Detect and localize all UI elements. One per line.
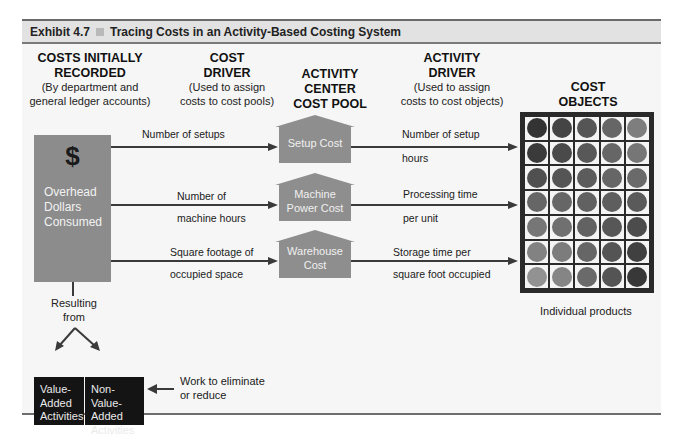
subheading-line: (Used to assign xyxy=(392,81,512,95)
product-cell xyxy=(525,117,548,140)
product-dot-icon xyxy=(602,118,622,138)
product-cell xyxy=(575,241,598,264)
cost-pool-machine-power: Machine Power Cost xyxy=(275,173,355,221)
split-arrows-icon xyxy=(55,326,125,352)
product-dot-icon xyxy=(577,242,597,262)
product-cell xyxy=(601,166,624,189)
product-cell xyxy=(575,265,598,288)
overhead-dollars-box: $ Overhead Dollars Consumed xyxy=(34,135,111,282)
product-cell xyxy=(525,166,548,189)
product-dot-icon xyxy=(527,217,547,237)
note-line: Work to eliminate xyxy=(180,374,265,388)
cost-driver-label-3b: occupied space xyxy=(170,268,243,280)
product-dot-icon xyxy=(577,192,597,212)
product-dot-icon xyxy=(627,192,647,212)
product-dot-icon xyxy=(627,217,647,237)
arrow-line xyxy=(351,146,509,148)
product-dot-icon xyxy=(627,118,647,138)
activity-driver-label-3a: Storage time per xyxy=(393,246,471,258)
product-cell xyxy=(525,191,548,214)
arrow-line xyxy=(111,260,269,262)
product-dot-icon xyxy=(602,267,622,287)
arrow-line xyxy=(111,146,269,148)
subheading-line: general ledger accounts) xyxy=(24,95,156,109)
product-grid xyxy=(520,112,654,293)
product-dot-icon xyxy=(602,217,622,237)
product-cell xyxy=(601,117,624,140)
subheading-line: costs to cost pools) xyxy=(172,95,282,109)
product-cell xyxy=(601,191,624,214)
heading-line: CENTER xyxy=(280,82,380,97)
heading-line: COST xyxy=(172,51,282,66)
connector-line xyxy=(72,282,74,296)
dollar-icon: $ xyxy=(34,141,111,172)
arrow-right-icon xyxy=(508,143,518,151)
subheading-line: costs to cost objects) xyxy=(392,95,512,109)
product-cell xyxy=(601,241,624,264)
product-dot-icon xyxy=(577,267,597,287)
product-dot-icon xyxy=(552,242,572,262)
product-cell xyxy=(626,265,649,288)
product-cell xyxy=(626,166,649,189)
product-dot-icon xyxy=(527,267,547,287)
pool-label: Machine xyxy=(275,188,355,201)
product-cell xyxy=(575,142,598,165)
arrow-line xyxy=(351,260,509,262)
header-activity-center: ACTIVITY CENTER COST POOL xyxy=(280,67,380,112)
heading-line: OBJECTS xyxy=(538,95,638,110)
cost-pool-warehouse: Warehouse Cost xyxy=(275,230,355,278)
product-cell xyxy=(550,142,573,165)
activity-line: Activities xyxy=(40,410,84,424)
product-dot-icon xyxy=(577,143,597,163)
product-cell xyxy=(525,265,548,288)
cost-driver-label-2a: Number of xyxy=(177,190,226,202)
product-dot-icon xyxy=(552,168,572,188)
product-cell xyxy=(626,191,649,214)
product-dot-icon xyxy=(527,168,547,188)
cost-driver-label-3a: Square footage of xyxy=(170,246,253,258)
resulting-line: from xyxy=(38,311,110,325)
product-dot-icon xyxy=(527,118,547,138)
product-cell xyxy=(550,265,573,288)
product-cell xyxy=(575,216,598,239)
product-cell xyxy=(550,166,573,189)
arrow-right-icon xyxy=(508,201,518,209)
exhibit-title-bar: Exhibit 4.7 Tracing Costs in an Activity… xyxy=(22,19,661,44)
overhead-line: Overhead xyxy=(44,185,102,200)
arrow-left-icon xyxy=(147,383,175,395)
product-cell xyxy=(550,216,573,239)
heading-line: DRIVER xyxy=(172,66,282,81)
heading-line: COSTS INITIALLY xyxy=(24,51,156,66)
subheading-line: (Used to assign xyxy=(172,81,282,95)
product-cell xyxy=(550,241,573,264)
product-dot-icon xyxy=(577,217,597,237)
exhibit-title: Tracing Costs in an Activity-Based Costi… xyxy=(110,25,401,39)
activity-line: Non-Value- xyxy=(91,383,144,410)
product-cell xyxy=(550,117,573,140)
product-dot-icon xyxy=(552,143,572,163)
note-line: or reduce xyxy=(180,388,265,402)
activity-driver-label-3b: square foot occupied xyxy=(393,268,490,280)
cost-driver-label-2b: machine hours xyxy=(177,212,246,224)
product-dot-icon xyxy=(577,118,597,138)
product-dot-icon xyxy=(602,143,622,163)
non-value-added-activities-box: Non-Value- Added Activities xyxy=(85,377,144,425)
activity-driver-label-1a: Number of setup xyxy=(402,128,480,140)
heading-line: COST POOL xyxy=(280,97,380,112)
product-cell xyxy=(626,142,649,165)
activity-line: Activities xyxy=(91,424,144,437)
overhead-line: Consumed xyxy=(44,215,102,230)
pool-label: Warehouse xyxy=(275,245,355,258)
product-cell xyxy=(575,166,598,189)
eliminate-note: Work to eliminate or reduce xyxy=(180,374,265,402)
product-cell xyxy=(550,191,573,214)
header-activity-driver: ACTIVITY DRIVER (Used to assign costs to… xyxy=(392,51,512,108)
activity-driver-label-2b: per unit xyxy=(403,212,438,224)
product-dot-icon xyxy=(627,143,647,163)
resulting-line: Resulting xyxy=(38,297,110,311)
product-cell xyxy=(601,265,624,288)
product-dot-icon xyxy=(552,267,572,287)
heading-line: COST xyxy=(538,80,638,95)
product-dot-icon xyxy=(552,192,572,212)
product-dot-icon xyxy=(552,217,572,237)
